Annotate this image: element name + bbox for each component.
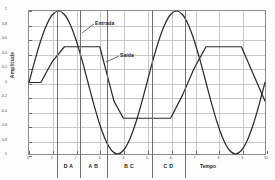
annotation-leader-lines bbox=[0, 0, 275, 180]
phase-region-label: B C bbox=[114, 163, 144, 169]
x-axis-title: Tempo bbox=[200, 163, 216, 169]
annotation-entrada: Entrada bbox=[95, 20, 114, 26]
phase-region-label: C D bbox=[153, 163, 183, 169]
annotation-saida: Saída bbox=[120, 52, 134, 58]
phase-region-label: A B bbox=[78, 163, 108, 169]
chart-figure: Amplitude 10,80,60,40,20-0,2-0,4-0,6-0,8… bbox=[0, 0, 275, 180]
